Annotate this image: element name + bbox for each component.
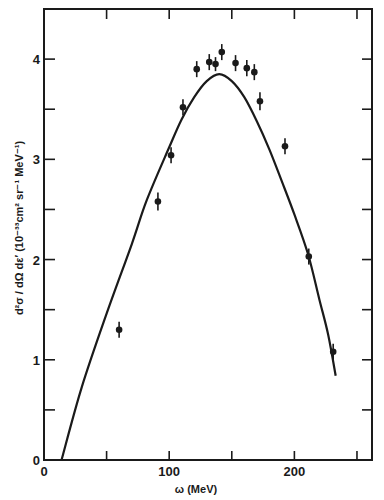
data-marker <box>212 61 219 68</box>
data-marker <box>206 59 213 66</box>
y-tick-label: 3 <box>33 152 40 167</box>
y-tick-label: 2 <box>33 253 40 268</box>
y-tick-label: 1 <box>33 353 40 368</box>
x-tick-label: 100 <box>158 464 180 479</box>
data-marker <box>282 143 289 150</box>
plot-frame <box>44 9 372 460</box>
data-marker <box>244 65 251 72</box>
data-point <box>212 57 219 71</box>
data-point <box>232 55 239 71</box>
data-point <box>218 44 225 60</box>
x-tick-label: 200 <box>284 464 306 479</box>
data-marker <box>155 198 162 205</box>
data-point <box>155 192 162 210</box>
y-tick-label: 4 <box>33 52 41 67</box>
data-marker <box>257 98 264 105</box>
data-marker <box>330 348 337 355</box>
data-point <box>244 60 251 76</box>
data-marker <box>218 49 225 56</box>
theory-curve <box>62 74 336 460</box>
chart: 010020001234 ω (MeV) d²σ / dΩ dε′ (10⁻³³… <box>0 0 384 500</box>
data-marker <box>168 152 175 159</box>
data-point <box>282 138 289 154</box>
data-points-group <box>116 44 337 360</box>
data-point <box>193 61 200 77</box>
data-point <box>251 64 258 80</box>
data-marker <box>180 104 187 111</box>
x-tick-label: 0 <box>40 464 47 479</box>
data-point <box>257 92 264 110</box>
data-point <box>206 54 213 70</box>
data-marker <box>251 69 258 76</box>
data-point <box>116 322 123 338</box>
plot-border <box>44 9 372 460</box>
theory-curve-group <box>62 74 336 460</box>
data-marker <box>232 60 239 67</box>
data-marker <box>116 326 123 333</box>
axis-ticks <box>44 9 372 460</box>
y-axis-title: d²σ / dΩ dε′ (10⁻³³cm² sr⁻¹ MeV⁻¹) <box>13 141 25 316</box>
data-marker <box>305 253 312 260</box>
data-marker <box>193 66 200 73</box>
y-tick-label: 0 <box>33 453 40 468</box>
x-axis-title: ω (MeV) <box>175 483 218 495</box>
